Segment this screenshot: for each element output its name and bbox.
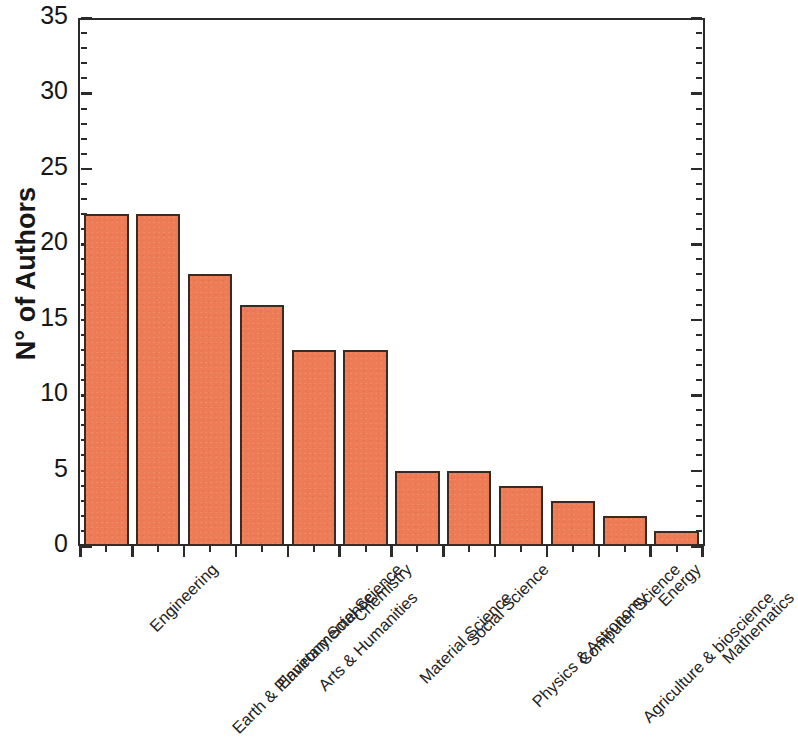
x-tick-label: Computer Science: [575, 560, 684, 669]
x-tick-label: Social Science: [463, 560, 553, 650]
x-tick-label: Engineering: [146, 560, 222, 636]
x-tick-label: Agriculture & bioscience: [639, 588, 778, 727]
